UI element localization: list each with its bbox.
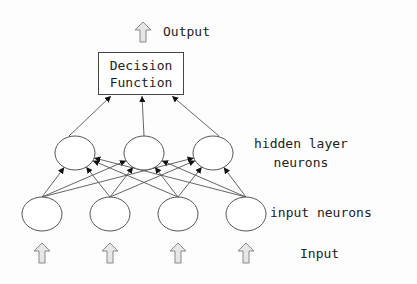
- edge-input-2-hidden-2: [178, 167, 202, 197]
- input-neuron-1: [90, 197, 130, 231]
- hidden-layer-label: hidden layer neurons: [254, 134, 348, 172]
- output-up-arrow-icon: [135, 22, 151, 42]
- decision-line-2: Function: [110, 74, 173, 91]
- input-3-up-arrow-icon: [238, 243, 254, 263]
- edge-input-1-hidden-0: [86, 167, 110, 197]
- hidden-label-line-1: hidden layer: [254, 134, 348, 153]
- network-graph: [0, 0, 417, 284]
- hidden-label-line-2: neurons: [254, 153, 348, 172]
- input-0-up-arrow-icon: [34, 243, 50, 263]
- input-2-up-arrow-icon: [170, 243, 186, 263]
- hidden-neuron-1: [124, 136, 164, 170]
- input-neuron-2: [158, 197, 198, 231]
- edge-hidden-2-decision: [172, 96, 219, 136]
- input-neuron-0: [22, 197, 62, 231]
- input-neuron-3: [226, 197, 266, 231]
- edge-hidden-0-decision: [69, 96, 111, 136]
- decision-line-1: Decision: [110, 57, 173, 74]
- edge-hidden-1-decision: [142, 96, 144, 136]
- neural-network-diagram: Output Decision Function hidden layer ne…: [0, 0, 417, 284]
- output-label: Output: [163, 24, 210, 39]
- decision-function-box: Decision Function: [98, 52, 184, 95]
- input-neurons-label: input neurons: [270, 205, 372, 220]
- hidden-neuron-2: [193, 136, 233, 170]
- input-1-up-arrow-icon: [102, 243, 118, 263]
- hidden-neuron-0: [55, 136, 95, 170]
- input-label: Input: [300, 246, 339, 261]
